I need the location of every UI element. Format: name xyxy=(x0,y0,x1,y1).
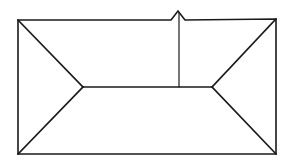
hip-line-bottom-right xyxy=(212,87,276,154)
hip-line-top-right xyxy=(212,19,276,87)
roof-outline xyxy=(18,11,276,154)
roof-plan-diagram xyxy=(0,0,288,162)
hip-line-bottom-left xyxy=(18,87,83,154)
hip-line-top-left xyxy=(18,20,83,87)
